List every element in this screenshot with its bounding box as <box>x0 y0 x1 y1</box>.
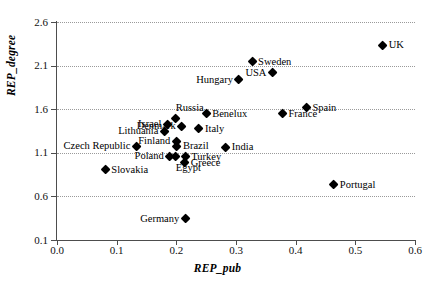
x-tick-label: 0.0 <box>37 245 77 256</box>
y-tick-label: 0.1 <box>4 235 48 246</box>
data-point-label: Germany <box>140 214 179 225</box>
x-tick-label: 0.2 <box>156 245 196 256</box>
data-point-label: Poland <box>135 151 164 162</box>
data-point-label: India <box>232 142 254 153</box>
x-tick-label: 0.3 <box>216 245 256 256</box>
scatter-chart: 0.10.61.11.62.12.6 0.00.10.20.30.40.50.6… <box>0 0 435 282</box>
diamond-marker-icon <box>194 124 204 134</box>
y-tick-label: 2.6 <box>4 17 48 28</box>
x-tick-label: 0.6 <box>395 245 435 256</box>
data-point-label: Italy <box>205 124 224 135</box>
data-point-label: USA <box>245 68 266 79</box>
diamond-marker-icon <box>100 165 110 175</box>
y-axis-title: REP_degree <box>5 35 17 96</box>
data-point-label: Finland <box>138 136 170 147</box>
diamond-marker-icon <box>277 109 287 119</box>
y-tick-label: 1.6 <box>4 104 48 115</box>
diamond-marker-icon <box>177 121 187 131</box>
data-point-label: Slovakia <box>111 165 148 176</box>
data-point-label: Portugal <box>340 180 376 191</box>
data-point-label: Egypt <box>176 163 201 174</box>
data-point-label: Czech Republic <box>64 141 131 152</box>
diamond-marker-icon <box>378 40 388 50</box>
diamond-marker-icon <box>247 57 257 67</box>
x-tick-label: 0.4 <box>276 245 316 256</box>
x-axis-title: REP_pub <box>0 262 435 274</box>
y-tick-label: 0.6 <box>4 191 48 202</box>
diamond-marker-icon <box>267 68 277 78</box>
data-point-label: France <box>289 109 318 120</box>
data-point-label: Russia <box>176 103 204 114</box>
plot-area: UKSwedenUSAHungarySpainFranceBeneluxRuss… <box>57 22 415 240</box>
data-point-label: Hungary <box>196 75 233 86</box>
x-tick-label: 0.1 <box>97 245 137 256</box>
data-point-label: Benelux <box>212 109 247 120</box>
diamond-marker-icon <box>171 151 181 161</box>
diamond-marker-icon <box>221 142 231 152</box>
data-point-label: UK <box>389 40 404 51</box>
y-tick-label: 1.1 <box>4 147 48 158</box>
diamond-marker-icon <box>234 75 244 85</box>
diamond-marker-icon <box>329 180 339 190</box>
diamond-marker-icon <box>180 214 190 224</box>
data-point-label: Sweden <box>258 57 291 68</box>
x-tick-label: 0.5 <box>335 245 375 256</box>
